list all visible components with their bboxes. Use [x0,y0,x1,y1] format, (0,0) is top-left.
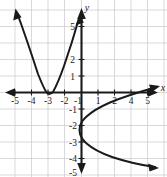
x-tick-label-neg5: -5 [11,96,19,106]
x-tick-label-neg4: -4 [28,96,36,106]
x-axis-label: x [160,82,166,93]
x-tick-label-neg3: -3 [44,96,52,106]
y-tick-label-neg1: -1 [69,105,77,115]
x-tick-label-1: 1 [96,96,101,106]
y-tick-label-1: 1 [70,72,75,82]
y-tick-label-neg5: -5 [69,168,77,177]
graph-canvas: -5 -4 -3 -2 -1 1 2 4 5 5 2 1 -1 -2 -3 -4… [0,0,167,177]
x-tick-label-neg2: -2 [61,96,69,106]
y-axis-label: y [84,2,90,13]
x-axis-tick-labels: -5 -4 -3 -2 -1 1 2 4 5 [11,96,150,106]
y-tick-label-neg3: -3 [69,138,77,148]
y-tick-label-neg2: -2 [69,121,77,131]
coordinate-graph-figure: -5 -4 -3 -2 -1 1 2 4 5 5 2 1 -1 -2 -3 -4… [0,0,167,177]
y-tick-label-2: 2 [70,55,75,65]
x-tick-label-5: 5 [145,96,150,106]
y-tick-label-neg4: -4 [69,154,77,164]
x-tick-label-4: 4 [129,96,134,106]
